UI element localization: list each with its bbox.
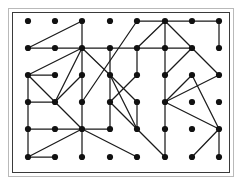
graph-node[interactable]	[52, 45, 58, 51]
graph-node[interactable]	[52, 72, 58, 78]
graph-node[interactable]	[52, 99, 58, 105]
graph-edge	[28, 129, 82, 157]
graph-node[interactable]	[216, 18, 222, 24]
graph-edge	[55, 102, 82, 129]
graph-diagram	[0, 0, 242, 185]
graph-node[interactable]	[162, 72, 168, 78]
graph-node[interactable]	[134, 126, 140, 132]
graph-node[interactable]	[79, 154, 85, 160]
graph-edge	[165, 21, 192, 48]
graph-node[interactable]	[216, 126, 222, 132]
graph-edge	[165, 75, 192, 102]
graph-node[interactable]	[162, 18, 168, 24]
graph-node[interactable]	[162, 99, 168, 105]
graph-edge	[192, 48, 219, 75]
graph-edge	[28, 48, 82, 75]
graph-edge	[165, 75, 219, 102]
graph-node[interactable]	[107, 154, 113, 160]
graph-edge	[137, 21, 165, 48]
graph-edge	[28, 75, 55, 102]
graph-node[interactable]	[52, 18, 58, 24]
graph-node[interactable]	[216, 99, 222, 105]
graph-node[interactable]	[25, 72, 31, 78]
graph-node[interactable]	[162, 154, 168, 160]
graph-node[interactable]	[25, 45, 31, 51]
graph-edge	[28, 21, 82, 48]
graph-node[interactable]	[134, 18, 140, 24]
graph-node[interactable]	[79, 99, 85, 105]
graph-node[interactable]	[107, 18, 113, 24]
graph-node[interactable]	[52, 154, 58, 160]
graph-node[interactable]	[216, 45, 222, 51]
graph-node[interactable]	[79, 72, 85, 78]
graph-node[interactable]	[25, 154, 31, 160]
graph-edge	[165, 48, 192, 75]
graph-node[interactable]	[189, 154, 195, 160]
graph-node[interactable]	[162, 45, 168, 51]
graph-node[interactable]	[216, 72, 222, 78]
graph-node[interactable]	[79, 18, 85, 24]
figure-canvas	[0, 0, 242, 185]
graph-edge	[165, 102, 219, 129]
graph-node[interactable]	[189, 45, 195, 51]
graph-edge	[110, 75, 137, 129]
graph-edge	[137, 129, 165, 157]
graph-node[interactable]	[189, 18, 195, 24]
graph-node[interactable]	[25, 126, 31, 132]
graph-edge	[82, 48, 110, 75]
graph-edge	[82, 129, 137, 157]
graph-node[interactable]	[134, 45, 140, 51]
graph-node[interactable]	[189, 126, 195, 132]
graph-node[interactable]	[52, 126, 58, 132]
graph-node[interactable]	[134, 154, 140, 160]
graph-node[interactable]	[134, 99, 140, 105]
graph-edge	[192, 75, 219, 129]
edge-layer	[28, 21, 219, 157]
graph-node[interactable]	[25, 99, 31, 105]
graph-node[interactable]	[107, 126, 113, 132]
graph-node[interactable]	[107, 99, 113, 105]
graph-edge	[192, 129, 219, 157]
graph-node[interactable]	[189, 72, 195, 78]
graph-node[interactable]	[189, 99, 195, 105]
graph-node[interactable]	[107, 72, 113, 78]
graph-edge	[55, 48, 82, 102]
graph-node[interactable]	[162, 126, 168, 132]
graph-node[interactable]	[216, 154, 222, 160]
graph-edge	[110, 102, 137, 129]
graph-node[interactable]	[79, 45, 85, 51]
graph-edge	[55, 75, 82, 102]
graph-node[interactable]	[107, 45, 113, 51]
graph-node[interactable]	[79, 126, 85, 132]
graph-node[interactable]	[134, 72, 140, 78]
graph-node[interactable]	[25, 18, 31, 24]
